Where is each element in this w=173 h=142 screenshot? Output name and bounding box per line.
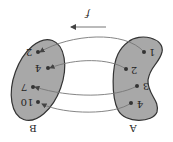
point-b-4: [46, 66, 50, 70]
point-b-7: [31, 85, 35, 89]
label-b-4: 4: [35, 63, 41, 74]
point-a-1: [142, 50, 146, 54]
label-b-10: 10: [21, 97, 34, 108]
point-b-10: [36, 100, 40, 104]
point-b-2: [36, 50, 40, 54]
label-a-3: 3: [143, 81, 149, 92]
label-b-7: 7: [21, 82, 27, 93]
function-label: f: [84, 9, 91, 20]
label-a-1: 1: [149, 47, 155, 58]
function-mapping-diagram: 2 4 7 10 1 2 3 4 B A f: [0, 0, 173, 142]
set-b-region: [1, 32, 75, 127]
set-a-label: A: [129, 123, 138, 134]
diagram-canvas: 2 4 7 10 1 2 3 4 B A f: [0, 0, 173, 142]
label-a-2: 2: [131, 65, 137, 76]
label-b-2: 2: [26, 47, 32, 58]
point-a-2: [124, 67, 128, 71]
point-a-4: [129, 101, 133, 105]
point-a-3: [135, 84, 139, 88]
label-a-4: 4: [137, 99, 143, 110]
set-b-label: B: [29, 123, 36, 134]
